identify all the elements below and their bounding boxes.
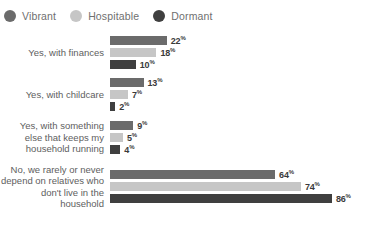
bar-row[interactable]: 18% [110,48,371,57]
bar-row[interactable]: 10% [110,60,371,69]
legend-item-vibrant[interactable]: Vibrant [4,10,56,22]
bar-value-label: 5% [127,132,137,143]
category-label: No, we rarely or never depend on relativ… [0,164,110,210]
bar-row[interactable]: 9% [110,121,371,130]
bar-row[interactable]: 13% [110,78,371,87]
bar-vibrant[interactable] [110,170,275,179]
legend-dot-icon [153,10,165,22]
bar-hospitable[interactable] [110,90,128,99]
bar-value-label: 22% [171,35,186,46]
bar-hospitable[interactable] [110,48,156,57]
legend-dot-icon [70,10,82,22]
bar-row[interactable]: 2% [110,102,371,111]
bar-row[interactable]: 64% [110,170,371,179]
bar-value-label: 10% [140,59,155,70]
bar-dormant[interactable] [110,102,115,111]
category-label: Yes, with something else that keeps my h… [0,120,110,155]
bar-dormant[interactable] [110,60,136,69]
bar-value-label: 13% [148,77,163,88]
grouped-bar-chart: Vibrant Hospitable Dormant Yes, with fin… [0,0,371,227]
chart-legend: Vibrant Hospitable Dormant [0,0,371,32]
legend-item-hospitable[interactable]: Hospitable [70,10,139,22]
bar-value-label: 74% [305,181,320,192]
bar-vibrant[interactable] [110,36,167,45]
bar-group: 64%74%86% [110,170,371,203]
bar-group: 22%18%10% [110,36,371,69]
chart-plot-area: Yes, with finances22%18%10%Yes, with chi… [0,32,371,210]
bar-hospitable[interactable] [110,182,301,191]
bar-value-label: 2% [119,101,129,112]
legend-item-dormant[interactable]: Dormant [153,10,212,22]
category-label: Yes, with finances [0,47,110,59]
legend-item-label: Hospitable [88,10,139,22]
bar-row[interactable]: 22% [110,36,371,45]
bar-vibrant[interactable] [110,121,133,130]
bar-row[interactable]: 5% [110,133,371,142]
bar-value-label: 9% [137,120,147,131]
legend-dot-icon [4,10,16,22]
bar-row[interactable]: 7% [110,90,371,99]
bar-value-label: 4% [124,144,134,155]
legend-item-label: Vibrant [22,10,56,22]
bar-dormant[interactable] [110,145,120,154]
bar-vibrant[interactable] [110,78,144,87]
legend-item-label: Dormant [171,10,212,22]
bar-value-label: 86% [336,193,351,204]
bar-value-label: 7% [132,89,142,100]
bar-row[interactable]: 74% [110,182,371,191]
category-label: Yes, with childcare [0,89,110,101]
bar-value-label: 18% [160,47,175,58]
chart-group: Yes, with childcare13%7%2% [0,78,371,111]
bar-row[interactable]: 86% [110,194,371,203]
bar-row[interactable]: 4% [110,145,371,154]
bar-group: 9%5%4% [110,121,371,154]
chart-group: Yes, with finances22%18%10% [0,36,371,69]
bar-value-label: 64% [279,169,294,180]
chart-group: No, we rarely or never depend on relativ… [0,164,371,210]
bar-dormant[interactable] [110,194,332,203]
bar-hospitable[interactable] [110,133,123,142]
chart-group: Yes, with something else that keeps my h… [0,120,371,155]
bar-group: 13%7%2% [110,78,371,111]
